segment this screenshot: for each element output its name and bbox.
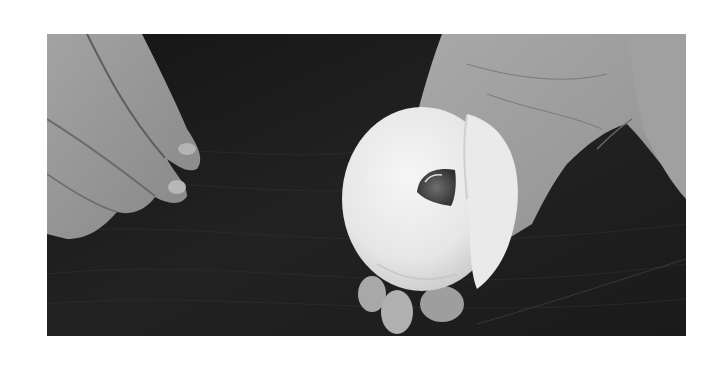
dough-ring bbox=[342, 107, 518, 291]
photo-illustration bbox=[47, 34, 686, 336]
photo: Black and white photo of hands shaping a… bbox=[47, 34, 686, 336]
